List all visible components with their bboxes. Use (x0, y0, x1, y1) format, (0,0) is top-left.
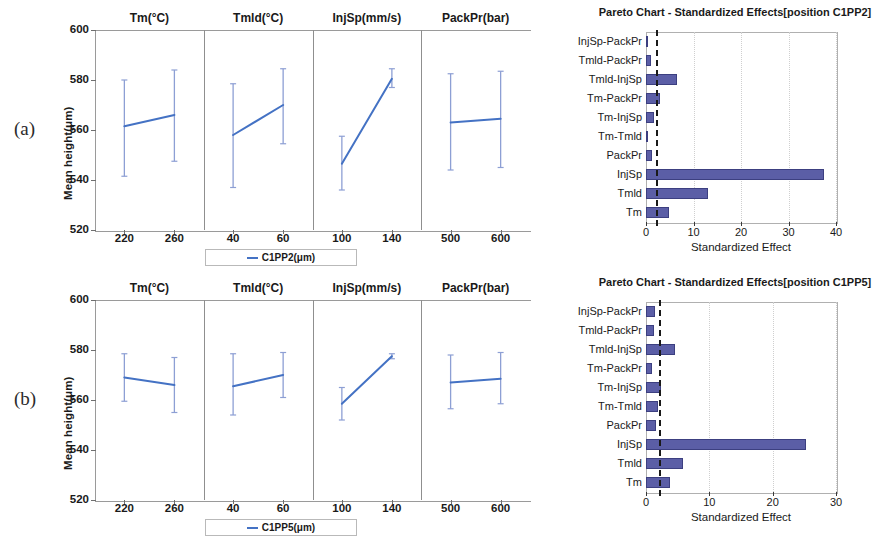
pareto-row-label: Tm-InjSp (524, 111, 642, 123)
pareto-row-label: Tm-InjSp (524, 381, 642, 393)
pareto-gridline (836, 32, 838, 222)
y-tick-label: 600 (55, 23, 89, 35)
panel-letter-a: (a) (14, 118, 35, 140)
y-axis-label: Mean height(μm) (62, 376, 74, 470)
y-axis-label: Mean height(μm) (62, 106, 74, 200)
pareto-reference-line (659, 300, 661, 496)
pareto-row-label: InjSp-PackPr (524, 35, 642, 47)
pareto-x-tick-label: 10 (689, 496, 729, 508)
pareto-row-label: Tmld (524, 187, 642, 199)
pareto-bar (646, 74, 677, 86)
pareto-x-tick-mark (741, 222, 742, 226)
pareto-row-label: PackPr (524, 419, 642, 431)
y-tick-label: 540 (55, 443, 89, 455)
pareto-x-axis-label: Standardized Effect (646, 241, 836, 253)
pareto-x-tick-label: 20 (721, 226, 761, 238)
pareto-row-label: Tmld-InjSp (524, 343, 642, 355)
pareto-row-label: Tm (524, 476, 642, 488)
pareto-bar (646, 401, 658, 413)
legend-line-swatch-icon (247, 257, 258, 259)
pareto-row-label: PackPr (524, 149, 642, 161)
subplot-title-1: Tmld(°C) (204, 11, 313, 25)
panel-letter-b: (b) (14, 388, 36, 410)
main-effects-legend: C1PP2(μm) (205, 249, 357, 266)
pareto-x-tick-mark (694, 222, 695, 226)
pareto-bar (646, 458, 683, 470)
pareto-bar (646, 150, 652, 162)
pareto-bar (646, 306, 655, 318)
pareto-bar (646, 325, 654, 337)
pareto-title: Pareto Chart - Standardized Effects[posi… (585, 6, 885, 18)
y-tick-label: 560 (55, 123, 89, 135)
pareto-gridline (741, 32, 743, 222)
pareto-row-label: InjSp (524, 168, 642, 180)
pareto-gridline (789, 32, 791, 222)
pareto-x-tick-mark (646, 492, 647, 496)
pareto-bar (646, 131, 648, 143)
pareto-bar (646, 112, 654, 124)
pareto-bar (646, 363, 652, 375)
pareto-x-tick-label: 20 (753, 496, 793, 508)
pareto-x-tick-mark (836, 492, 837, 496)
pareto-x-tick-mark (709, 492, 710, 496)
pareto-row-label: Tm-Tmld (524, 400, 642, 412)
pareto-row-label: Tmld (524, 457, 642, 469)
pareto-bar (646, 55, 651, 67)
main-effects-series (95, 300, 532, 502)
pareto-gridline (709, 302, 711, 492)
pareto-row-label: InjSp (524, 438, 642, 450)
pareto-x-tick-mark (646, 222, 647, 226)
y-tick-label: 580 (55, 73, 89, 85)
pareto-x-tick-label: 10 (674, 226, 714, 238)
subplot-title-2: InjSp(mm/s) (313, 281, 422, 295)
main-effects-series (95, 30, 532, 232)
pareto-title: Pareto Chart - Standardized Effects[posi… (585, 276, 885, 288)
subplot-title-3: PackPr(bar) (421, 281, 530, 295)
subplot-title-0: Tm(°C) (95, 11, 204, 25)
pareto-x-tick-label: 0 (626, 496, 666, 508)
y-tick-label: 520 (55, 223, 89, 235)
subplot-title-1: Tmld(°C) (204, 281, 313, 295)
pareto-x-tick-label: 30 (816, 496, 856, 508)
pareto-row-label: Tm-PackPr (524, 362, 642, 374)
legend-label: C1PP2(μm) (262, 252, 315, 263)
pareto-gridline (836, 302, 838, 492)
pareto-bar (646, 439, 806, 451)
pareto-row-label: Tmld-PackPr (524, 324, 642, 336)
pareto-x-tick-label: 40 (816, 226, 856, 238)
pareto-x-tick-mark (836, 222, 837, 226)
y-tick-label: 520 (55, 493, 89, 505)
pareto-bar (646, 207, 669, 219)
pareto-bar (646, 93, 660, 105)
pareto-x-tick-label: 0 (626, 226, 666, 238)
legend-line-swatch-icon (247, 527, 258, 529)
pareto-row-label: Tmld-InjSp (524, 73, 642, 85)
pareto-x-tick-mark (789, 222, 790, 226)
pareto-row-label: Tm-Tmld (524, 130, 642, 142)
legend-label: C1PP5(μm) (262, 522, 315, 533)
subplot-title-2: InjSp(mm/s) (313, 11, 422, 25)
pareto-x-tick-label: 30 (769, 226, 809, 238)
main-effects-legend: C1PP5(μm) (205, 519, 357, 536)
subplot-title-3: PackPr(bar) (421, 11, 530, 25)
y-tick-label: 580 (55, 343, 89, 355)
pareto-row-label: Tmld-PackPr (524, 54, 642, 66)
pareto-bar (646, 420, 656, 432)
pareto-bar (646, 169, 824, 181)
pareto-row-label: Tm (524, 206, 642, 218)
subplot-title-0: Tm(°C) (95, 281, 204, 295)
y-tick-label: 600 (55, 293, 89, 305)
pareto-row-label: InjSp-PackPr (524, 305, 642, 317)
pareto-row-label: Tm-PackPr (524, 92, 642, 104)
pareto-x-axis-label: Standardized Effect (646, 511, 836, 523)
pareto-reference-line (656, 30, 658, 226)
pareto-x-tick-mark (773, 492, 774, 496)
y-tick-label: 560 (55, 393, 89, 405)
y-tick-label: 540 (55, 173, 89, 185)
pareto-gridline (773, 302, 775, 492)
pareto-bar (646, 36, 648, 48)
